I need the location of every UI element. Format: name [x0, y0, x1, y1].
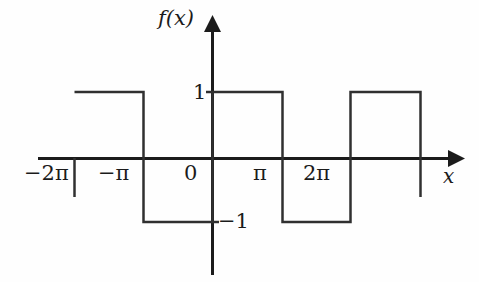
square-wave-figure: f(x) x −2π −π 0 π 2π 1 −1	[0, 0, 479, 282]
x-tick-zero: 0	[184, 163, 197, 184]
y-axis-label: f(x)	[158, 8, 194, 29]
x-tick-minus-pi: −π	[98, 163, 129, 184]
y-axis-arrowhead	[204, 15, 221, 32]
x-tick-2pi: 2π	[303, 163, 330, 184]
x-tick-pi: π	[253, 163, 267, 184]
x-axis-label: x	[443, 166, 454, 186]
plot-canvas	[0, 0, 479, 282]
x-tick-minus-2pi: −2π	[24, 163, 69, 184]
y-tick-minus-one: −1	[218, 211, 249, 232]
y-tick-one: 1	[193, 82, 206, 103]
